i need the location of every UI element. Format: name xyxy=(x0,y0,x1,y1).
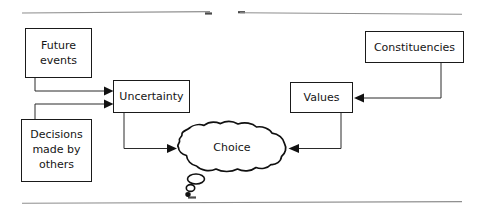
constituencies-label: Constituencies xyxy=(374,41,455,54)
decisions-label-line3: others xyxy=(39,158,74,171)
thought-bubble-small xyxy=(186,193,190,196)
node-decisions-made-by-others[interactable]: Decisions made by others xyxy=(22,120,92,182)
arrow-head-decisions xyxy=(104,100,114,109)
edge-uncertainty-to-choice xyxy=(124,113,177,153)
thought-bubble-medium xyxy=(186,185,194,192)
thought-bubble-large xyxy=(188,174,205,184)
bottom-rule xyxy=(22,202,462,204)
edge-values-to-choice xyxy=(289,113,342,153)
diagram-canvas: Choice Future events Decisions made by o… xyxy=(0,0,481,215)
node-constituencies[interactable]: Constituencies xyxy=(366,32,464,63)
future-events-label-line2: events xyxy=(40,54,77,67)
values-label: Values xyxy=(304,91,340,104)
arrow-head-values xyxy=(289,144,300,153)
top-left-rule xyxy=(22,12,210,13)
arrow-head-future-events xyxy=(104,87,114,96)
bottom-rules xyxy=(22,198,462,204)
edge-decisions-to-uncertainty xyxy=(35,100,114,119)
decisions-label-line2: made by xyxy=(32,143,81,156)
top-rules xyxy=(22,12,462,15)
arrow-head-uncertainty xyxy=(167,144,177,153)
uncertainty-label: Uncertainty xyxy=(119,90,184,103)
node-future-events[interactable]: Future events xyxy=(26,29,92,78)
future-events-label-line1: Future xyxy=(41,39,76,52)
node-uncertainty[interactable]: Uncertainty xyxy=(114,81,190,113)
node-values[interactable]: Values xyxy=(291,83,353,113)
edge-constituencies-to-values xyxy=(354,63,441,102)
choice-thought-cloud: Choice xyxy=(178,122,286,197)
arrow-head-constituencies xyxy=(354,94,364,103)
future-events-box[interactable] xyxy=(26,29,92,78)
diagram-svg: Choice Future events Decisions made by o… xyxy=(0,0,481,215)
top-right-rule xyxy=(240,13,462,14)
edge-future-events-to-uncertainty xyxy=(35,78,114,95)
decisions-label-line1: Decisions xyxy=(30,128,83,141)
choice-label: Choice xyxy=(213,141,250,154)
